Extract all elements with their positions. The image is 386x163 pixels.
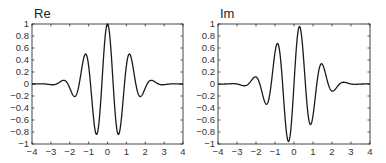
y-tick-label: −1: [204, 138, 215, 149]
data-line: [218, 27, 370, 142]
x-tick-label: −1: [83, 146, 94, 157]
x-tick-label: 4: [180, 146, 185, 157]
y-tick-label: 0: [24, 78, 29, 89]
y-tick-label: −0.8: [196, 126, 215, 137]
y-tick-label: −1: [18, 138, 29, 149]
y-tick-label: −0.4: [10, 102, 29, 113]
x-tick-label: 0: [105, 146, 110, 157]
x-tick-label: −2: [64, 146, 75, 157]
y-tick-label: 1: [210, 18, 215, 29]
chart-title: Im: [220, 6, 234, 21]
y-tick-label: 0.8: [202, 30, 215, 41]
x-tick-label: −2: [251, 146, 262, 157]
y-tick-label: 0.6: [202, 42, 215, 53]
x-tick-label: 0: [291, 146, 296, 157]
x-tick-label: 2: [329, 146, 334, 157]
y-tick-label: 0.8: [16, 30, 29, 41]
x-tick-label: 3: [348, 146, 353, 157]
x-tick-label: 2: [143, 146, 148, 157]
x-tick-label: 1: [124, 146, 129, 157]
x-tick-label: 3: [161, 146, 166, 157]
chart-panel-re: −4−3−2−10123410.80.60.40.20−0.2−0.4−0.6−…: [10, 6, 185, 157]
chart-area: −4−3−2−10123410.80.60.40.20−0.2−0.4−0.6−…: [0, 0, 386, 163]
chart-panel-im: −4−3−2−10123410.80.60.40.20−0.2−0.4−0.6−…: [196, 6, 372, 157]
y-tick-label: 1: [24, 18, 29, 29]
y-tick-label: −0.4: [196, 102, 215, 113]
y-tick-label: 0: [210, 78, 215, 89]
y-tick-label: 0.6: [16, 42, 29, 53]
x-tick-label: −3: [45, 146, 56, 157]
x-tick-label: −1: [270, 146, 281, 157]
y-tick-label: −0.8: [10, 126, 29, 137]
y-tick-label: −0.6: [196, 114, 215, 125]
x-tick-label: −3: [232, 146, 243, 157]
y-tick-label: −0.2: [10, 90, 29, 101]
y-tick-label: −0.6: [10, 114, 29, 125]
y-tick-label: 0.4: [16, 54, 29, 65]
x-tick-label: 4: [367, 146, 372, 157]
y-tick-label: 0.2: [202, 66, 215, 77]
x-tick-label: 1: [310, 146, 315, 157]
y-tick-label: 0.4: [202, 54, 215, 65]
chart-title: Re: [34, 6, 51, 21]
y-tick-label: 0.2: [16, 66, 29, 77]
y-tick-label: −0.2: [196, 90, 215, 101]
data-line: [32, 24, 183, 134]
